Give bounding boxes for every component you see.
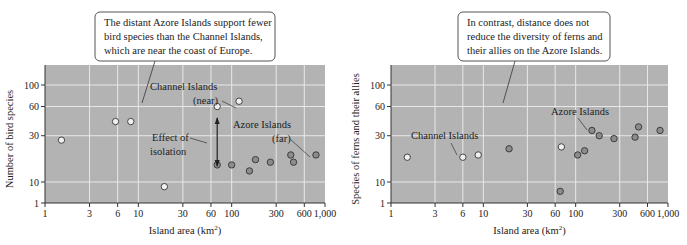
x-axis-label: Island area (km2) bbox=[149, 224, 222, 237]
data-point-filled bbox=[574, 152, 580, 158]
x-tick-label: 100 bbox=[568, 208, 583, 219]
data-point-open bbox=[128, 118, 134, 124]
x-tick-label: 3 bbox=[433, 208, 438, 219]
callout-text: The distant Azore Islands support fewer bbox=[104, 17, 272, 28]
x-tick-label: 600 bbox=[640, 208, 655, 219]
x-tick-label: 300 bbox=[612, 208, 627, 219]
x-tick-label: 60 bbox=[206, 208, 216, 219]
annotation-channel-islands: Channel Islands bbox=[411, 130, 478, 141]
data-point-filled bbox=[581, 148, 587, 154]
data-point-filled bbox=[267, 159, 273, 165]
y-tick-label: 100 bbox=[370, 80, 385, 91]
x-tick-label: 10 bbox=[133, 208, 143, 219]
y-tick-label: 100 bbox=[24, 80, 39, 91]
annotation-channel-islands: Channel Islands bbox=[150, 81, 217, 92]
x-tick-label: 6 bbox=[115, 208, 120, 219]
data-point-filled bbox=[632, 134, 638, 140]
data-point-filled bbox=[657, 127, 663, 133]
data-point-filled bbox=[506, 146, 512, 152]
x-tick-label: 30 bbox=[522, 208, 532, 219]
data-point-filled bbox=[288, 152, 294, 158]
x-tick-label: 100 bbox=[224, 208, 239, 219]
x-tick-label: 1,000 bbox=[657, 208, 680, 219]
y-tick-label: 30 bbox=[29, 130, 39, 141]
y-tick-label: 10 bbox=[29, 177, 39, 188]
data-point-filled bbox=[252, 156, 258, 162]
y-axis-label: Species of ferns and their allies bbox=[350, 73, 361, 205]
data-point-open bbox=[475, 152, 481, 158]
fern-species-chart: 1361030601003006001,0001103060100Island … bbox=[350, 12, 679, 237]
x-tick-label: 300 bbox=[269, 208, 284, 219]
x-tick-label: 60 bbox=[550, 208, 560, 219]
callout-text: their allies on the Azore Islands. bbox=[467, 45, 602, 56]
x-axis-label: Island area (km2) bbox=[493, 224, 566, 237]
x-tick-label: 6 bbox=[460, 208, 465, 219]
y-tick-label: 60 bbox=[375, 101, 385, 112]
data-point-open bbox=[58, 137, 64, 143]
data-point-filled bbox=[611, 135, 617, 141]
annotation-isolation: isolation bbox=[150, 146, 187, 157]
x-tick-label: 30 bbox=[178, 208, 188, 219]
y-tick-label: 60 bbox=[29, 101, 39, 112]
y-axis-label: Number of bird species bbox=[4, 90, 15, 188]
data-point-filled bbox=[246, 168, 252, 174]
y-tick-label: 30 bbox=[375, 130, 385, 141]
callout-text: In contrast, distance does not bbox=[467, 17, 589, 28]
data-point-filled bbox=[313, 152, 319, 158]
data-point-open bbox=[161, 183, 167, 189]
annotation-azore-far: (far) bbox=[272, 133, 291, 145]
x-tick-label: 600 bbox=[297, 208, 312, 219]
data-point-filled bbox=[557, 188, 563, 194]
x-tick-label: 3 bbox=[87, 208, 92, 219]
data-point-open bbox=[460, 154, 466, 160]
annotation-azore-islands: Azore Islands bbox=[551, 106, 609, 117]
data-point-filled bbox=[228, 162, 234, 168]
data-point-open bbox=[112, 118, 118, 124]
y-tick-label: 10 bbox=[375, 177, 385, 188]
callout-text: bird species than the Channel Islands, bbox=[104, 31, 263, 42]
x-tick-label: 10 bbox=[478, 208, 488, 219]
data-point-filled bbox=[635, 124, 641, 130]
data-point-open bbox=[404, 154, 410, 160]
chart-canvas: 1361030601003006001,0001103060100Island … bbox=[0, 0, 687, 245]
annotation-effect: Effect of bbox=[152, 132, 189, 143]
y-tick-label: 1 bbox=[380, 198, 385, 209]
data-point-open bbox=[236, 98, 242, 104]
bird-species-chart: 1361030601003006001,0001103060100Island … bbox=[4, 12, 336, 237]
callout-text: reduce the diversity of ferns and bbox=[467, 31, 603, 42]
callout-text: which are near the coast of Europe. bbox=[104, 45, 252, 56]
x-tick-label: 1,000 bbox=[314, 208, 337, 219]
data-point-open bbox=[558, 144, 564, 150]
annotation-azore-islands: Azore Islands bbox=[233, 119, 291, 130]
data-point-filled bbox=[596, 133, 602, 139]
x-tick-label: 1 bbox=[43, 208, 48, 219]
y-tick-label: 1 bbox=[34, 198, 39, 209]
annotation-channel-near: (near) bbox=[193, 95, 219, 107]
data-point-filled bbox=[589, 127, 595, 133]
x-tick-label: 1 bbox=[389, 208, 394, 219]
data-point-filled bbox=[290, 159, 296, 165]
